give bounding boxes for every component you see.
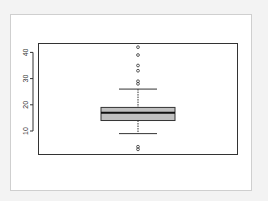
y-tick-label: 40 [22,48,29,56]
outlier-point [137,54,140,57]
iqr-box [101,107,175,120]
box [101,89,175,134]
y-tick-label: 30 [22,75,29,83]
y-tick-label: 20 [22,101,29,109]
outlier-point [137,64,140,67]
outlier-point [137,46,140,49]
outlier-points [137,46,140,151]
boxplot-chart: 10203040 [0,0,268,201]
y-axis: 10203040 [22,48,33,134]
outlier-point [137,69,140,72]
plot-area [39,44,238,155]
y-tick-label: 10 [22,127,29,135]
